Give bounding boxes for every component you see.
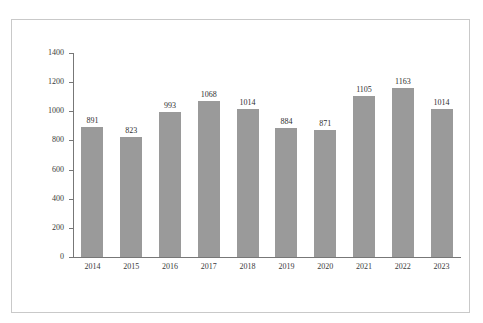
x-axis-line [73, 257, 461, 258]
bar-2015 [120, 137, 142, 257]
y-tick-mark [69, 199, 73, 200]
y-tick-label: 0 [24, 253, 64, 261]
y-tick-label: 1400 [24, 49, 64, 57]
bar-2018 [237, 109, 259, 257]
y-axis-line [73, 53, 74, 257]
y-tick-label: 200 [24, 224, 64, 232]
bar-2017 [198, 101, 220, 257]
bar-value-label-2016: 993 [150, 101, 190, 110]
y-tick-mark [69, 170, 73, 171]
bar-value-label-2014: 891 [72, 116, 112, 125]
bar-value-label-2018: 1014 [228, 98, 268, 107]
bar-value-label-2019: 884 [266, 117, 306, 126]
x-tick-label-2016: 2016 [150, 262, 190, 271]
y-tick-mark [69, 111, 73, 112]
y-tick-mark [69, 257, 73, 258]
y-tick-mark [69, 228, 73, 229]
y-tick-mark [69, 53, 73, 54]
bar-2014 [81, 127, 103, 257]
bar-2023 [431, 109, 453, 257]
x-tick-label-2022: 2022 [383, 262, 423, 271]
y-tick-mark [69, 82, 73, 83]
x-tick-label-2015: 2015 [111, 262, 151, 271]
y-tick-label: 800 [24, 136, 64, 144]
x-tick-label-2023: 2023 [422, 262, 462, 271]
bar-value-label-2015: 823 [111, 126, 151, 135]
bar-chart-plot-area: 0200400600800100012001400 89182399310681… [12, 20, 471, 314]
x-tick-label-2021: 2021 [344, 262, 384, 271]
bar-value-label-2023: 1014 [422, 98, 462, 107]
y-tick-label: 600 [24, 166, 64, 174]
bar-2022 [392, 88, 414, 257]
x-tick-label-2017: 2017 [189, 262, 229, 271]
bar-value-label-2020: 871 [305, 119, 345, 128]
x-tick-label-2019: 2019 [266, 262, 306, 271]
clipped-header-text: ————— [11, 0, 58, 1]
y-tick-label: 400 [24, 195, 64, 203]
chart-frame: 0200400600800100012001400 89182399310681… [11, 19, 470, 313]
bar-2016 [159, 112, 181, 257]
x-tick-label-2014: 2014 [72, 262, 112, 271]
bar-2020 [314, 130, 336, 257]
bar-2019 [275, 128, 297, 257]
bar-value-label-2017: 1068 [189, 90, 229, 99]
y-tick-mark [69, 140, 73, 141]
bar-2021 [353, 96, 375, 257]
bar-value-label-2021: 1105 [344, 85, 384, 94]
x-tick-label-2020: 2020 [305, 262, 345, 271]
y-tick-label: 1000 [24, 107, 64, 115]
y-tick-label: 1200 [24, 78, 64, 86]
bar-value-label-2022: 1163 [383, 77, 423, 86]
x-tick-label-2018: 2018 [228, 262, 268, 271]
